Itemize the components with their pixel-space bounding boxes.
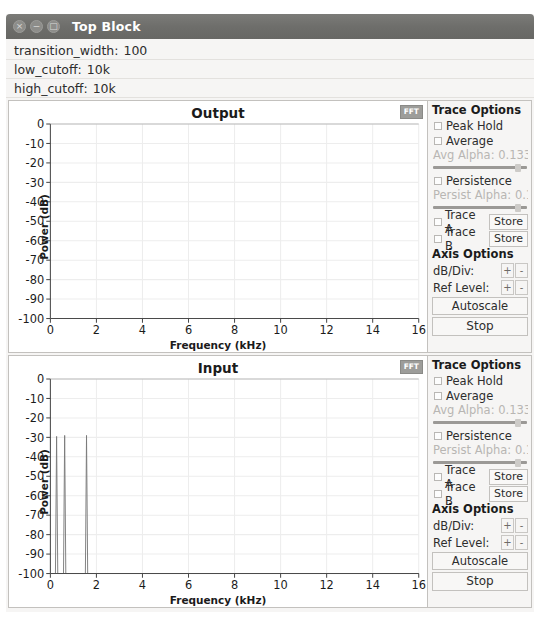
ref-level-label: Ref Level:: [433, 281, 500, 295]
plot-canvas-input: 02468101214160-10-20-30-40-50-60-70-80-9…: [9, 356, 427, 607]
peak-hold-label: Peak Hold: [446, 119, 503, 133]
trace-options-header: Trace Options: [432, 103, 528, 117]
svg-text:6: 6: [185, 578, 192, 592]
avg-alpha-slider[interactable]: [432, 162, 528, 173]
stop-button[interactable]: Stop: [432, 317, 528, 336]
slider-track: [433, 206, 527, 209]
window-titlebar: × − □ Top Block: [6, 14, 534, 39]
plot-canvas-output: 02468101214160-10-20-30-40-50-60-70-80-9…: [9, 101, 427, 352]
close-icon[interactable]: ×: [13, 20, 26, 33]
trace-b-row[interactable]: Trace B Store: [432, 230, 528, 247]
avg-alpha-label: Avg Alpha: 0.1333: [432, 403, 528, 417]
svg-text:-10: -10: [26, 137, 45, 151]
db-div-row: dB/Div: + -: [432, 262, 528, 279]
peak-hold-checkbox[interactable]: Peak Hold: [432, 373, 528, 388]
persistence-checkbox[interactable]: Persistence: [432, 428, 528, 443]
maximize-icon[interactable]: □: [47, 20, 60, 33]
checkbox-icon: [434, 392, 442, 400]
x-axis-label: Frequency (kHz): [9, 339, 427, 351]
param-value: 10k: [87, 62, 110, 77]
peak-hold-label: Peak Hold: [446, 374, 503, 388]
db-div-increment-button[interactable]: +: [501, 263, 514, 278]
svg-text:10: 10: [273, 578, 287, 592]
slider-track: [433, 166, 527, 169]
peak-hold-checkbox[interactable]: Peak Hold: [432, 118, 528, 133]
trace-a-store-button[interactable]: Store: [489, 469, 528, 485]
slider-track: [433, 421, 527, 424]
fft-button[interactable]: FFT: [400, 360, 423, 374]
svg-text:-100: -100: [18, 567, 44, 581]
ref-level-row: Ref Level: + -: [432, 279, 528, 296]
checkbox-icon: [434, 377, 442, 385]
param-label: low_cutoff:: [14, 62, 82, 77]
svg-text:0: 0: [47, 578, 54, 592]
svg-text:-30: -30: [26, 430, 45, 444]
ref-level-decrement-button[interactable]: -: [515, 280, 528, 295]
svg-text:4: 4: [139, 578, 146, 592]
plot-output[interactable]: 02468101214160-10-20-30-40-50-60-70-80-9…: [8, 100, 428, 353]
svg-text:16: 16: [411, 323, 425, 337]
ref-level-increment-button[interactable]: +: [501, 535, 514, 550]
svg-text:14: 14: [365, 323, 379, 337]
svg-text:0: 0: [47, 323, 54, 337]
persist-alpha-label: Persist Alpha: 0.18: [432, 188, 528, 202]
ref-level-decrement-button[interactable]: -: [515, 535, 528, 550]
persistence-label: Persistence: [446, 174, 512, 188]
slider-track: [433, 461, 527, 464]
persistence-checkbox[interactable]: Persistence: [432, 173, 528, 188]
avg-alpha-slider[interactable]: [432, 417, 528, 428]
svg-text:10: 10: [273, 323, 287, 337]
checkbox-icon: [434, 177, 442, 185]
ref-level-label: Ref Level:: [433, 536, 500, 550]
average-checkbox[interactable]: Average: [432, 388, 528, 403]
svg-text:-20: -20: [26, 411, 45, 425]
svg-text:16: 16: [411, 578, 425, 592]
slider-knob[interactable]: [515, 459, 521, 467]
checkbox-icon: [434, 218, 442, 226]
minimize-icon[interactable]: −: [30, 20, 43, 33]
param-row-high-cutoff[interactable]: high_cutoff: 10k: [6, 79, 534, 98]
persist-alpha-label: Persist Alpha: 0.18: [432, 443, 528, 457]
y-axis-label: Power (dB): [38, 194, 50, 260]
autoscale-button[interactable]: Autoscale: [432, 552, 528, 570]
y-axis-label: Power (dB): [38, 449, 50, 515]
param-label: transition_width:: [14, 43, 118, 58]
window-title: Top Block: [72, 19, 141, 34]
autoscale-button[interactable]: Autoscale: [432, 297, 528, 315]
db-div-decrement-button[interactable]: -: [515, 518, 528, 533]
trace-b-store-button[interactable]: Store: [489, 231, 528, 247]
slider-knob[interactable]: [515, 204, 521, 212]
parameter-panel: transition_width: 100 low_cutoff: 10k hi…: [6, 39, 534, 98]
db-div-row: dB/Div: + -: [432, 517, 528, 534]
param-row-low-cutoff[interactable]: low_cutoff: 10k: [6, 60, 534, 79]
stop-button[interactable]: Stop: [432, 572, 528, 591]
trace-options-header: Trace Options: [432, 358, 528, 372]
svg-text:-80: -80: [26, 528, 45, 542]
slider-knob[interactable]: [515, 419, 521, 427]
persistence-label: Persistence: [446, 429, 512, 443]
db-div-decrement-button[interactable]: -: [515, 263, 528, 278]
param-value: 10k: [93, 81, 116, 96]
svg-text:2: 2: [93, 323, 100, 337]
checkbox-icon: [434, 235, 442, 243]
trace-a-store-button[interactable]: Store: [489, 214, 528, 230]
avg-alpha-label: Avg Alpha: 0.1333: [432, 148, 528, 162]
plot-input[interactable]: 02468101214160-10-20-30-40-50-60-70-80-9…: [8, 355, 428, 608]
trace-b-row[interactable]: Trace B Store: [432, 485, 528, 502]
svg-text:4: 4: [139, 323, 146, 337]
trace-b-store-button[interactable]: Store: [489, 486, 528, 502]
svg-text:14: 14: [365, 578, 379, 592]
svg-text:2: 2: [93, 578, 100, 592]
svg-text:12: 12: [319, 578, 333, 592]
average-checkbox[interactable]: Average: [432, 133, 528, 148]
db-div-increment-button[interactable]: +: [501, 518, 514, 533]
ref-level-increment-button[interactable]: +: [501, 280, 514, 295]
slider-knob[interactable]: [515, 164, 521, 172]
application-window: × − □ Top Block transition_width: 100 lo…: [6, 14, 534, 612]
sink-input: 02468101214160-10-20-30-40-50-60-70-80-9…: [8, 355, 532, 608]
sink-output: 02468101214160-10-20-30-40-50-60-70-80-9…: [8, 100, 532, 353]
param-row-transition-width[interactable]: transition_width: 100: [6, 41, 534, 60]
checkbox-icon: [434, 473, 442, 481]
fft-button[interactable]: FFT: [400, 105, 423, 119]
plot-title-output: Output: [9, 105, 427, 121]
